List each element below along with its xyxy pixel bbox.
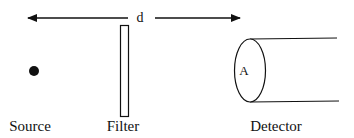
detector-top-edge	[250, 38, 337, 39]
distance-arrow: d	[28, 10, 240, 25]
detector-label: Detector	[250, 118, 302, 134]
source-dot	[29, 66, 39, 76]
source-label: Source	[9, 118, 51, 134]
distance-label: d	[137, 10, 144, 25]
filter-label: Filter	[107, 118, 140, 134]
aperture-label: A	[239, 63, 249, 78]
diagram-canvas: d A Source Filter Detector	[0, 0, 354, 138]
filter-plate	[121, 26, 129, 117]
detector-bottom-edge	[250, 101, 339, 102]
detector-cylinder: A	[235, 38, 340, 102]
